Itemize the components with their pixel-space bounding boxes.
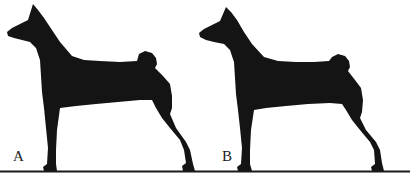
panel-label-a: A	[13, 149, 24, 164]
dog-silhouette-b	[199, 7, 384, 171]
panel-label-b: B	[222, 149, 232, 164]
figure-canvas	[0, 0, 410, 179]
dog-silhouette-a	[7, 4, 195, 171]
